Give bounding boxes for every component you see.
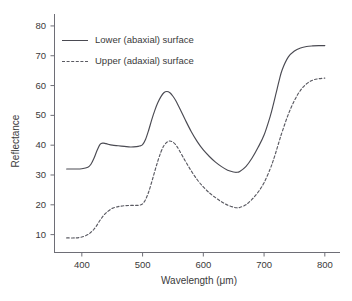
x-axis-ticks — [82, 253, 325, 257]
series-line-upper — [67, 78, 325, 238]
legend-item-upper: Upper (adaxial) surface — [62, 55, 194, 67]
legend-item-label: Lower (abaxial) surface — [95, 35, 194, 45]
x-tick-label: 800 — [305, 260, 345, 270]
legend-line-dashed-icon — [62, 61, 88, 62]
y-tick-label: 80 — [14, 21, 46, 31]
x-tick-label: 400 — [62, 260, 102, 270]
x-tick-label: 600 — [183, 260, 223, 270]
y-tick-label: 60 — [14, 81, 46, 91]
x-axis-label: Wavelength (μm) — [54, 276, 344, 286]
legend-line-solid-icon — [62, 40, 88, 41]
legend-item-lower: Lower (abaxial) surface — [62, 34, 194, 46]
x-tick-label: 500 — [123, 260, 163, 270]
y-tick-label: 20 — [14, 200, 46, 210]
series-lines — [67, 46, 325, 238]
y-tick-label: 70 — [14, 51, 46, 61]
legend-item-label: Upper (adaxial) surface — [95, 56, 194, 66]
y-tick-label: 10 — [14, 230, 46, 240]
x-tick-label: 700 — [244, 260, 284, 270]
y-axis-label: Reflectance — [11, 101, 21, 181]
y-axis-ticks — [51, 26, 55, 235]
reflectance-spectrum-chart: 1020304050607080400500600700800 Reflecta… — [0, 0, 352, 301]
chart-legend: Lower (abaxial) surface Upper (adaxial) … — [62, 34, 194, 67]
